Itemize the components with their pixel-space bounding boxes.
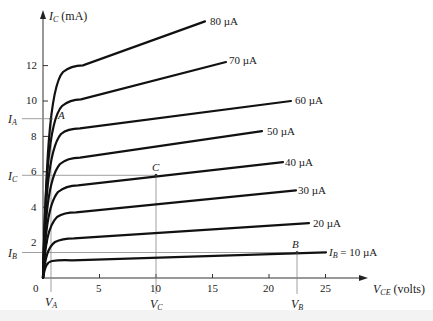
point-a-marker [50,117,53,120]
point-a-label: A [58,110,65,121]
curve-label-30ua: 30 µA [298,185,326,196]
point-b-marker [296,251,299,254]
y-tick-4: 4 [31,202,37,213]
origin-label: 0 [33,283,39,294]
curve-70ua [43,62,226,278]
curve-label-40ua: 40 µA [285,157,313,168]
y-axis-arrow-icon [40,10,46,19]
curve-label-60ua: 60 µA [295,95,323,106]
point-b-label: B [292,239,299,250]
curve-label-10ua: IB = 10 µA [329,247,377,260]
x-tick-20: 20 [263,283,274,294]
y-axis-title: IC (mA) [49,10,87,24]
curve-20ua [43,223,309,278]
curve-60ua [43,101,291,278]
curve-label-50ua: 50 µA [267,126,295,137]
curve-label-80ua: 80 µA [210,16,238,27]
axes [43,16,362,278]
x-axis-title: VCE (volts) [373,283,425,297]
curve-30ua [43,190,296,278]
x-tick-5: 5 [96,283,102,294]
curve-label-70ua: 70 µA [229,55,257,66]
characteristic-curves [43,21,326,278]
x-tick-15: 15 [207,283,218,294]
x-tick-25: 25 [320,283,331,294]
curve-label-20ua: 20 µA [313,218,341,229]
point-c-label: C [152,162,159,173]
point-c-marker [155,174,158,177]
y-tick-12: 12 [26,60,37,71]
x-axis-arrow-icon [359,275,368,281]
y-tick-6: 6 [31,166,37,177]
y-tick-8: 8 [31,131,37,142]
marker-ia: IA [8,113,17,127]
y-tick-10: 10 [26,95,37,106]
marker-va: VA [45,296,57,310]
transistor-characteristics-chart [0,0,433,321]
marker-ib: IB [8,247,17,261]
x-tick-10: 10 [150,283,161,294]
x-ticks [100,274,326,278]
bottom-margin [0,310,433,321]
y-tick-2: 2 [31,237,37,248]
marker-ic: IC [8,170,17,184]
curve-10ua [43,252,326,278]
